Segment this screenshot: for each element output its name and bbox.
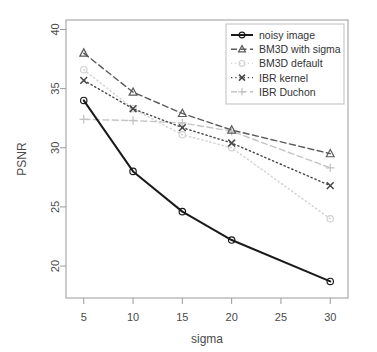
legend-label: BM3D with sigma (259, 43, 341, 55)
data-point-plus (326, 164, 335, 173)
data-point-plus (129, 116, 138, 125)
y-tick-label: 25 (49, 201, 61, 213)
data-point-plus (79, 115, 88, 124)
x-tick-label: 25 (275, 311, 287, 323)
series-noisy-image (81, 97, 334, 284)
x-tick-label: 20 (226, 311, 238, 323)
data-point-cross (80, 77, 87, 84)
y-tick-label: 20 (49, 260, 61, 272)
legend-label: IBR kernel (259, 72, 308, 84)
psnr-vs-sigma-chart: 2025303540 51015202530 noisy imageBM3D w… (0, 0, 377, 352)
chart-legend: noisy imageBM3D with sigmaBM3D defaultIB… (226, 24, 344, 104)
series-line (84, 119, 331, 168)
y-tick-label: 40 (49, 23, 61, 35)
legend-label: noisy image (259, 29, 315, 41)
x-axis-ticks: 51015202530 (81, 298, 337, 323)
x-tick-label: 5 (81, 311, 87, 323)
x-tick-label: 30 (324, 311, 336, 323)
x-axis-title: sigma (191, 332, 223, 346)
y-axis-ticks: 2025303540 (49, 23, 66, 272)
series-ibr-duchon (79, 115, 334, 172)
data-point-cross (327, 182, 334, 189)
data-point-cross (130, 105, 137, 112)
legend-label: BM3D default (259, 57, 323, 69)
x-tick-label: 10 (127, 311, 139, 323)
y-tick-label: 35 (49, 82, 61, 94)
data-point-cross (228, 140, 235, 147)
legend-label: IBR Duchon (259, 86, 316, 98)
chart-figure: 2025303540 51015202530 noisy imageBM3D w… (0, 0, 377, 352)
y-axis-title: PSNR (15, 142, 29, 176)
y-tick-label: 30 (49, 142, 61, 154)
x-tick-label: 15 (176, 311, 188, 323)
